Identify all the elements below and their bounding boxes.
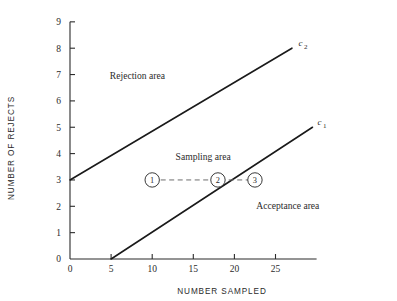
sample-marker: 2 xyxy=(211,173,225,187)
area-annotation-label: Rejection area xyxy=(110,70,166,81)
sequential-sampling-chart: 0123456789 0510152025 123 c2c1 Rejection… xyxy=(0,0,397,301)
x-tick-label: 20 xyxy=(230,264,240,274)
x-tick-label: 15 xyxy=(189,264,199,274)
tick-marks xyxy=(70,22,276,259)
y-tick-label: 2 xyxy=(56,202,61,212)
sample-marker: 1 xyxy=(145,173,159,187)
x-tick-label: 5 xyxy=(109,264,114,274)
area-annotations: Rejection areaSampling areaAcceptance ar… xyxy=(110,70,320,211)
line-label-subscript: 1 xyxy=(323,122,327,130)
limit-line-labels: c2c1 xyxy=(299,38,327,130)
line-label-c1: c1 xyxy=(317,117,327,130)
y-tick-label: 4 xyxy=(56,149,61,159)
line-label-text: c xyxy=(299,38,303,48)
x-tick-label: 25 xyxy=(271,264,281,274)
line-label-subscript: 2 xyxy=(304,43,308,51)
y-tick-label: 7 xyxy=(56,70,61,80)
sample-marker: 3 xyxy=(248,173,262,187)
axes xyxy=(70,22,317,259)
limit-line-c1 xyxy=(111,127,312,259)
line-label-c2: c2 xyxy=(299,38,309,51)
marker-number-label: 2 xyxy=(216,176,220,185)
x-axis-tick-labels: 0510152025 xyxy=(68,264,281,274)
line-label-text: c xyxy=(317,117,321,127)
y-axis-tick-labels: 0123456789 xyxy=(56,17,61,264)
y-tick-label: 9 xyxy=(56,17,61,27)
y-tick-label: 1 xyxy=(56,228,61,238)
y-tick-label: 8 xyxy=(56,44,61,54)
area-annotation-label: Acceptance area xyxy=(256,200,320,211)
x-tick-label: 10 xyxy=(147,264,157,274)
marker-number-label: 3 xyxy=(253,176,257,185)
marker-number-label: 1 xyxy=(150,176,154,185)
y-tick-label: 5 xyxy=(56,123,61,133)
y-tick-label: 3 xyxy=(56,175,61,185)
x-tick-label: 0 xyxy=(68,264,73,274)
figure-container: 0123456789 0510152025 123 c2c1 Rejection… xyxy=(0,0,397,301)
y-axis-title: NUMBER OF REJECTS xyxy=(7,96,16,200)
area-annotation-label: Sampling area xyxy=(176,151,232,162)
x-axis-title: NUMBER SAMPLED xyxy=(177,287,267,296)
y-tick-label: 0 xyxy=(56,254,61,264)
y-tick-label: 6 xyxy=(56,96,61,106)
